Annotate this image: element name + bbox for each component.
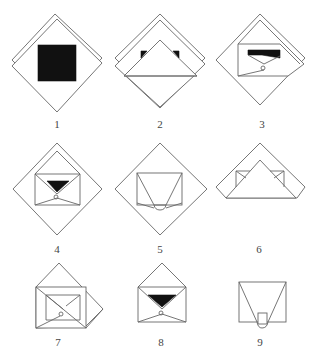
step-5-figure xyxy=(115,143,207,235)
step-label-9: 9 xyxy=(257,337,263,348)
step-1-figure xyxy=(12,14,102,112)
step-9-figure xyxy=(239,282,286,328)
step-label-3: 3 xyxy=(259,119,265,130)
step-label-7: 7 xyxy=(55,337,61,348)
step-8-figure xyxy=(138,263,186,322)
step-label-8: 8 xyxy=(158,337,164,348)
step-label-6: 6 xyxy=(256,244,262,255)
step-6-figure xyxy=(216,143,305,198)
step-2-figure xyxy=(115,14,205,108)
folding-diagram xyxy=(0,0,319,358)
step-label-5: 5 xyxy=(157,244,163,255)
step-label-4: 4 xyxy=(54,244,60,255)
step-label-1: 1 xyxy=(54,119,60,130)
step-3-figure xyxy=(216,14,305,105)
step-4-figure xyxy=(13,143,102,235)
step-label-2: 2 xyxy=(157,119,163,130)
step-7-figure xyxy=(36,263,103,328)
